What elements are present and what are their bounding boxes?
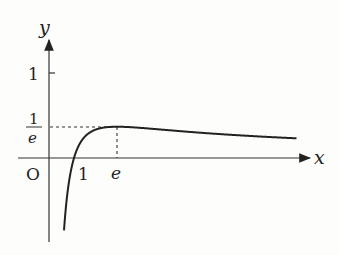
x-tick-label-1: 1 bbox=[78, 164, 89, 184]
x-tick-label-e: e bbox=[111, 163, 121, 183]
y-axis-label: y bbox=[38, 16, 50, 38]
y-tick-label-inv-e-den: e bbox=[28, 129, 37, 147]
y-tick-label-1: 1 bbox=[28, 64, 39, 84]
chart: y x O 1 1 e 1 e bbox=[0, 0, 339, 255]
plot-area: y x O 1 1 e 1 e bbox=[0, 0, 339, 255]
y-tick-label-inv-e-num: 1 bbox=[29, 110, 39, 128]
origin-label: O bbox=[26, 164, 40, 184]
function-curve bbox=[64, 127, 297, 231]
x-axis-label: x bbox=[314, 146, 325, 168]
